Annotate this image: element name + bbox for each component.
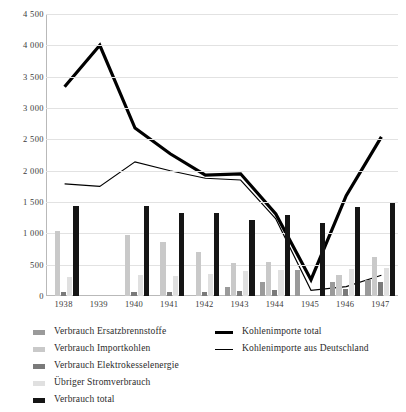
- legend-swatch-icon: [33, 364, 45, 369]
- bar: [144, 206, 149, 296]
- bar: [131, 292, 136, 296]
- bar: [349, 269, 354, 296]
- plot-area: [46, 14, 398, 296]
- bar: [202, 292, 207, 296]
- bar: [179, 213, 184, 296]
- bar: [378, 282, 383, 296]
- legend-item[interactable]: Verbrauch total: [33, 392, 179, 408]
- x-axis-tick-label: 1939: [90, 299, 108, 309]
- legend-item-label: Verbrauch Importkohlen: [54, 344, 150, 354]
- bar: [330, 282, 335, 296]
- bar: [320, 223, 325, 296]
- gridline: [46, 14, 398, 15]
- y-axis-tick-label: 3 000: [23, 103, 44, 113]
- legend-item-label: Verbrauch Elektrokesselenergie: [54, 361, 179, 371]
- bar: [343, 289, 348, 296]
- legend-item-label: Kohlenimporte total: [242, 327, 322, 337]
- legend-line-icon: [215, 331, 233, 334]
- bar: [160, 242, 165, 296]
- legend-item-label: Kohlenimporte aus Deutschland: [242, 344, 369, 354]
- y-axis-tick-label: 3 500: [23, 72, 44, 82]
- legend-item[interactable]: Übriger Stromverbrauch: [33, 375, 179, 391]
- y-axis-tick-label: 0: [39, 291, 44, 301]
- bar: [167, 292, 172, 296]
- gridline: [46, 108, 398, 109]
- legend-swatch-icon: [33, 381, 45, 386]
- y-axis-tick-label: 500: [30, 260, 44, 270]
- legend-column-lines: Kohlenimporte totalKohlenimporte aus Deu…: [215, 324, 369, 358]
- y-axis-tick-label: 1 000: [23, 228, 44, 238]
- gridline: [46, 202, 398, 203]
- bar: [173, 276, 178, 296]
- bar: [295, 270, 300, 296]
- legend-item[interactable]: Verbrauch Elektrokesselenergie: [33, 358, 179, 374]
- bar: [384, 268, 389, 296]
- x-axis-tick-label: 1938: [54, 299, 72, 309]
- bar: [196, 252, 201, 296]
- legend-swatch-icon: [33, 398, 45, 403]
- legend-item[interactable]: Verbrauch Importkohlen: [33, 341, 179, 357]
- bar: [225, 287, 230, 296]
- bar: [237, 291, 242, 296]
- legend-item-label: Verbrauch total: [54, 395, 115, 405]
- bar: [73, 206, 78, 296]
- x-axis-tick-label: 1946: [336, 299, 354, 309]
- legend-item[interactable]: Kohlenimporte total: [215, 324, 369, 340]
- x-axis-tick-label: 1942: [195, 299, 213, 309]
- bar: [249, 220, 254, 296]
- legend-swatch-icon: [33, 330, 45, 335]
- gridline: [46, 77, 398, 78]
- bar: [138, 275, 143, 296]
- x-axis-tick-label: 1947: [371, 299, 389, 309]
- x-axis-tick-label: 1940: [125, 299, 143, 309]
- bar: [336, 275, 341, 296]
- legend-swatch-icon: [33, 347, 45, 352]
- bar: [272, 290, 277, 296]
- x-axis-tick-label: 1941: [160, 299, 178, 309]
- line-series: [65, 45, 382, 279]
- bar: [365, 280, 370, 296]
- bar: [278, 270, 283, 296]
- bar: [260, 282, 265, 296]
- bar: [214, 213, 219, 296]
- bar: [372, 257, 377, 296]
- bar: [61, 292, 66, 296]
- line-series-layer: [47, 14, 399, 296]
- bar: [55, 231, 60, 296]
- y-axis-tick-label: 4 000: [23, 40, 44, 50]
- gridline: [46, 265, 398, 266]
- gridline: [46, 171, 398, 172]
- legend-column-bars: Verbrauch ErsatzbrennstoffeVerbrauch Imp…: [33, 324, 179, 409]
- bar: [243, 271, 248, 296]
- bar: [231, 263, 236, 296]
- bar: [390, 203, 395, 296]
- x-axis-tick-label: 1944: [266, 299, 284, 309]
- legend-item[interactable]: Kohlenimporte aus Deutschland: [215, 341, 369, 357]
- x-axis-tick-label: 1945: [301, 299, 319, 309]
- bar: [285, 215, 290, 296]
- bar: [67, 277, 72, 296]
- chart-legend: Verbrauch ErsatzbrennstoffeVerbrauch Imp…: [0, 322, 406, 412]
- bar: [208, 274, 213, 296]
- chart-root: 05001 0001 5002 0002 5003 0003 5004 0004…: [0, 0, 406, 412]
- legend-line-icon: [215, 349, 233, 350]
- y-axis-tick-label: 4 500: [23, 9, 44, 19]
- bar: [125, 235, 130, 296]
- gridline: [46, 233, 398, 234]
- bar: [266, 262, 271, 296]
- y-axis-tick-label: 2 500: [23, 134, 44, 144]
- gridline: [46, 45, 398, 46]
- y-axis-tick-label: 2 000: [23, 166, 44, 176]
- x-axis-tick-label: 1943: [230, 299, 248, 309]
- y-axis-tick-label: 1 500: [23, 197, 44, 207]
- gridline: [46, 139, 398, 140]
- legend-item-label: Verbrauch Ersatzbrennstoffe: [54, 327, 166, 337]
- bar: [355, 207, 360, 296]
- legend-item[interactable]: Verbrauch Ersatzbrennstoffe: [33, 324, 179, 340]
- legend-item-label: Übriger Stromverbrauch: [54, 378, 150, 388]
